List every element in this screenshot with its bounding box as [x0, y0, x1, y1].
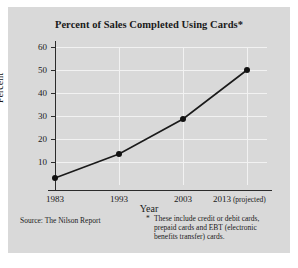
y-axis-title: Percent	[0, 73, 5, 103]
data-point-2013	[244, 67, 250, 73]
data-point-2003	[180, 116, 186, 122]
footnote: *These include credit or debit cards, pr…	[146, 214, 288, 242]
footnote-marker: *	[146, 214, 154, 223]
series-line	[55, 70, 247, 178]
source-note: Source: The Nilson Report	[20, 216, 100, 225]
footnote-line-1: *These include credit or debit cards,	[146, 214, 288, 223]
data-point-1993	[116, 151, 122, 157]
chart-figure: Percent of Sales Completed Using Cards* …	[8, 7, 290, 253]
footnote-line-2: prepaid cards and EBT (electronic	[146, 223, 288, 232]
data-point-1983	[52, 175, 58, 181]
footnote-line-3: benefits transfer) cards.	[146, 232, 288, 241]
footnote-line-1-text: These include credit or debit cards,	[154, 214, 259, 223]
